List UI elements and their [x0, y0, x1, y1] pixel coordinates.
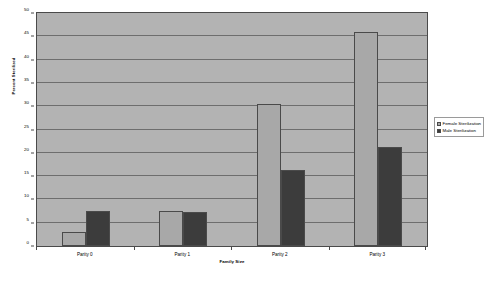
- bars-layer: [37, 13, 427, 246]
- x-tick-mark: [329, 247, 330, 250]
- chart-legend: Female SterilizationMale Sterilization: [434, 117, 484, 137]
- y-tick-mark: [31, 129, 34, 130]
- bar-group: [37, 13, 135, 246]
- x-tick-label: Parity 3: [369, 252, 385, 257]
- bar-male: [281, 170, 305, 246]
- x-tick-mark: [134, 247, 135, 250]
- y-tick-mark: [31, 106, 34, 107]
- bar-female: [354, 32, 378, 246]
- bar-female: [62, 232, 86, 246]
- y-tick-mark: [31, 13, 34, 14]
- bar-female: [257, 104, 281, 246]
- legend-swatch-female: [437, 122, 441, 126]
- x-tick-label: Parity 1: [174, 252, 190, 257]
- y-tick-label: 50: [24, 7, 29, 12]
- y-tick-mark: [31, 59, 34, 60]
- x-axis-title: Family Size: [36, 259, 428, 264]
- y-tick-label: 45: [24, 30, 29, 35]
- bar-female: [159, 211, 183, 246]
- y-tick-mark: [31, 222, 34, 223]
- y-tick-mark: [31, 82, 34, 83]
- bar-group: [232, 13, 330, 246]
- y-tick-label: 0: [27, 240, 29, 245]
- bar-male: [183, 212, 207, 246]
- legend-swatch-male: [437, 129, 441, 133]
- y-tick-label: 40: [24, 53, 29, 58]
- bar-chart: Percent Sterilized 05101520253035404550 …: [0, 0, 496, 281]
- y-tick-label: 25: [24, 123, 29, 128]
- y-tick-label: 5: [27, 216, 29, 221]
- y-tick-mark: [31, 199, 34, 200]
- y-tick-label: 35: [24, 76, 29, 81]
- y-tick-mark: [31, 152, 34, 153]
- legend-label: Male Sterilization: [443, 127, 476, 134]
- x-tick-label: Parity 2: [272, 252, 288, 257]
- y-tick-mark: [31, 176, 34, 177]
- y-tick-label: 15: [24, 170, 29, 175]
- x-tick-mark: [231, 247, 232, 250]
- bar-group: [135, 13, 233, 246]
- y-tick-mark: [31, 36, 34, 37]
- x-tick-label: Parity 0: [77, 252, 93, 257]
- bar-male: [86, 211, 110, 246]
- legend-item: Female Sterilization: [437, 120, 481, 127]
- legend-label: Female Sterilization: [443, 120, 482, 127]
- y-tick-label: 10: [24, 193, 29, 198]
- bar-group: [330, 13, 428, 246]
- y-tick-label: 30: [24, 100, 29, 105]
- x-tick-mark: [36, 247, 37, 250]
- y-axis-ticks: 05101520253035404550: [0, 12, 34, 247]
- plot-area: [36, 12, 428, 247]
- y-tick-label: 20: [24, 146, 29, 151]
- bar-male: [378, 147, 402, 246]
- x-tick-mark: [425, 247, 426, 250]
- legend-item: Male Sterilization: [437, 127, 481, 134]
- y-tick-mark: [31, 246, 34, 247]
